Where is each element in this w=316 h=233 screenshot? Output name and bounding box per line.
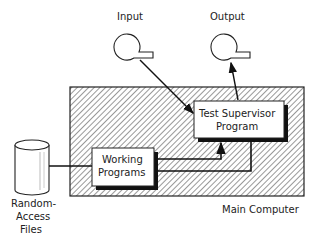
files-label-line3: Files	[20, 224, 42, 233]
working-label-line2: Programs	[98, 167, 145, 178]
disk-files-icon	[15, 140, 49, 195]
files-label-line1: Random-	[11, 198, 56, 209]
main-computer-label: Main Computer	[222, 204, 300, 215]
working-label-line1: Working	[102, 154, 143, 165]
supervisor-label-line1: Test Supervisor	[198, 108, 276, 119]
system-diagram: Main Computer Input Output Test Supervis…	[0, 0, 316, 233]
supervisor-label-line2: Program	[216, 121, 258, 132]
output-label: Output	[210, 11, 245, 22]
input-label: Input	[117, 11, 143, 22]
files-label-line2: Access	[16, 211, 50, 222]
input-tape-icon	[114, 34, 153, 60]
output-tape-icon	[211, 34, 250, 60]
test-supervisor-box	[194, 101, 284, 138]
